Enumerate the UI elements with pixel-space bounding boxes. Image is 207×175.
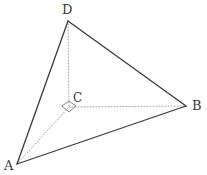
edge-A-B — [17, 106, 186, 164]
vertex-label-d: D — [62, 3, 72, 16]
vertex-label-b: B — [192, 99, 202, 112]
vertex-label-c: C — [73, 92, 82, 104]
edge-D-B — [68, 21, 186, 106]
edge-A-D — [17, 21, 68, 164]
solid-edges-group — [17, 21, 186, 164]
edge-C-B-dotted — [69, 106, 186, 107]
geometry-figure: D B A C — [0, 0, 207, 175]
edge-D-C-dotted — [68, 21, 69, 107]
tetrahedron-diagram — [0, 0, 207, 175]
vertex-label-a: A — [4, 159, 13, 172]
